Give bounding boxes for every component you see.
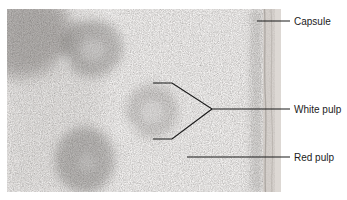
histology-figure: Capsule White pulp Red pulp xyxy=(0,0,347,200)
spleen-micrograph xyxy=(7,9,281,192)
label-capsule: Capsule xyxy=(294,16,331,27)
label-white-pulp: White pulp xyxy=(294,104,341,115)
label-red-pulp: Red pulp xyxy=(294,152,334,163)
micrograph-texture xyxy=(7,9,281,192)
